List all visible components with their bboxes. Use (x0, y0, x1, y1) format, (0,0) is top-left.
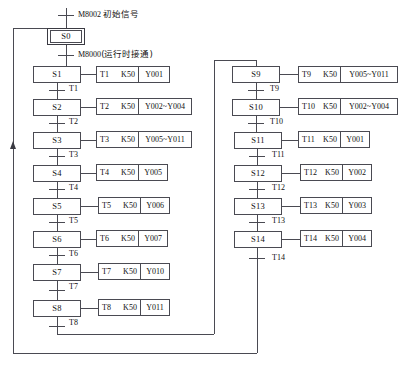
step-box-s3[interactable]: S3 (33, 132, 81, 149)
timer-cell: T12K50 (301, 165, 343, 180)
timer-name: T14 (304, 235, 319, 243)
output-cell: Y002~Y004 (139, 99, 191, 114)
transition-label-t10: T10 (270, 118, 283, 126)
action-box-s5[interactable]: T5K50Y006 (98, 197, 170, 214)
step-box-s0[interactable]: S0 (47, 28, 85, 45)
step-box-s14[interactable]: S14 (234, 231, 282, 248)
timer-preset: K50 (325, 169, 339, 177)
step-box-s11[interactable]: S11 (234, 132, 282, 149)
timer-preset: K50 (323, 103, 337, 111)
timer-preset: K50 (323, 71, 337, 79)
transition-label-t7: T7 (69, 283, 78, 291)
output-cell: Y003 (343, 198, 371, 213)
output-cell: Y004 (343, 231, 371, 246)
timer-name: T11 (302, 136, 317, 144)
transition-label-t12: T12 (272, 184, 285, 192)
timer-cell: T4K50 (97, 165, 139, 180)
timer-cell: T8K50 (99, 300, 141, 315)
flow-arrow-icon (10, 141, 16, 149)
timer-name: T2 (100, 103, 115, 111)
transition-label-t1: T1 (69, 85, 78, 93)
action-box-s1[interactable]: T1K50Y001 (96, 66, 170, 83)
step-box-s1[interactable]: S1 (33, 66, 81, 83)
timer-cell: T14K50 (301, 231, 343, 246)
timer-cell: T11K50 (299, 132, 341, 147)
timer-name: T1 (100, 71, 115, 79)
transition-label-t2: T2 (69, 118, 78, 126)
timer-name: T5 (102, 202, 117, 210)
transition-label-t3: T3 (69, 151, 78, 159)
action-box-s7[interactable]: T7K50Y010 (98, 263, 170, 280)
output-cell: Y010 (141, 264, 169, 279)
step-box-s6[interactable]: S6 (33, 231, 81, 248)
transition-label-t6: T6 (69, 250, 78, 258)
action-box-s9[interactable]: T9K50Y005~Y011 (298, 66, 398, 83)
timer-cell: T7K50 (99, 264, 141, 279)
step-label: S0 (50, 30, 82, 43)
timer-cell: T9K50 (299, 67, 341, 82)
timer-preset: K50 (123, 202, 137, 210)
timer-name: T8 (102, 304, 117, 312)
action-box-s3[interactable]: T3K50Y005~Y011 (96, 131, 192, 148)
transition-label-t11: T11 (272, 151, 285, 159)
timer-cell: T13K50 (301, 198, 343, 213)
run-signal-label: M8000(运行时接通) (78, 50, 153, 59)
action-box-s4[interactable]: T4K50Y005 (96, 164, 168, 181)
output-cell: Y005~Y011 (341, 67, 397, 82)
step-box-s8[interactable]: S8 (33, 300, 81, 317)
step-box-s10[interactable]: S10 (232, 99, 280, 116)
action-box-s10[interactable]: T10K50Y002~Y004 (298, 98, 398, 115)
output-cell: Y002 (343, 165, 371, 180)
output-cell: Y001 (341, 132, 369, 147)
transition-label-t4: T4 (69, 184, 78, 192)
timer-preset: K50 (325, 235, 339, 243)
timer-preset: K50 (121, 235, 135, 243)
transition-label-t5: T5 (69, 217, 78, 225)
timer-preset: K50 (121, 103, 135, 111)
action-box-s8[interactable]: T8K50Y011 (98, 299, 170, 316)
step-box-s5[interactable]: S5 (33, 198, 81, 215)
action-box-s13[interactable]: T13K50Y003 (300, 197, 372, 214)
timer-name: T13 (304, 202, 319, 210)
step-box-s13[interactable]: S13 (234, 198, 282, 215)
timer-name: T12 (304, 169, 319, 177)
step-box-s12[interactable]: S12 (234, 165, 282, 182)
timer-cell: T1K50 (97, 67, 139, 82)
step-box-s4[interactable]: S4 (33, 165, 81, 182)
action-box-s2[interactable]: T2K50Y002~Y004 (96, 98, 192, 115)
step-box-s2[interactable]: S2 (33, 99, 81, 116)
step-box-s9[interactable]: S9 (232, 66, 280, 83)
timer-preset: K50 (123, 304, 137, 312)
timer-preset: K50 (121, 136, 135, 144)
sfc-diagram-canvas: M8002 初始信号 M8000(运行时接通) S0S1T1K50Y001T1S… (0, 0, 409, 372)
timer-cell: T3K50 (97, 132, 139, 147)
action-box-s6[interactable]: T6K50Y007 (96, 230, 168, 247)
timer-preset: K50 (323, 136, 337, 144)
transition-label-t14: T14 (272, 254, 285, 262)
output-cell: Y011 (141, 300, 169, 315)
action-box-s14[interactable]: T14K50Y004 (300, 230, 372, 247)
timer-cell: T10K50 (299, 99, 341, 114)
timer-name: T6 (100, 235, 115, 243)
timer-name: T7 (102, 268, 117, 276)
timer-cell: T6K50 (97, 231, 139, 246)
timer-preset: K50 (121, 71, 135, 79)
output-cell: Y001 (139, 67, 169, 82)
timer-preset: K50 (121, 169, 135, 177)
timer-preset: K50 (325, 202, 339, 210)
output-cell: Y005 (139, 165, 167, 180)
output-cell: Y006 (141, 198, 169, 213)
transition-label-t9: T9 (270, 85, 279, 93)
timer-name: T10 (302, 103, 317, 111)
output-cell: Y002~Y004 (341, 99, 397, 114)
timer-cell: T2K50 (97, 99, 139, 114)
transition-label-t13: T13 (272, 217, 285, 225)
output-cell: Y007 (139, 231, 167, 246)
step-box-s7[interactable]: S7 (33, 264, 81, 281)
action-box-s12[interactable]: T12K50Y002 (300, 164, 372, 181)
timer-name: T3 (100, 136, 115, 144)
timer-name: T4 (100, 169, 115, 177)
action-box-s11[interactable]: T11K50Y001 (298, 131, 370, 148)
timer-name: T9 (302, 71, 317, 79)
timer-cell: T5K50 (99, 198, 141, 213)
